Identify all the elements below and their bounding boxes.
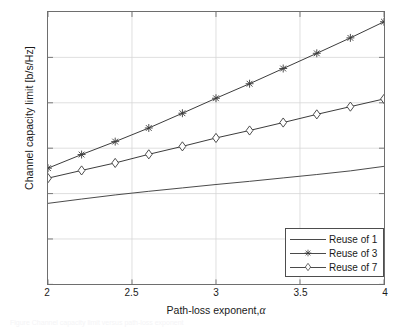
y-axis-label: Channel capacity limit [b/s/Hz] [23,0,35,243]
legend-swatch-diamond [290,261,326,273]
caption-ghost: Figure Channel capacity limit versus pat… [10,319,310,327]
x-tick-label: 3 [196,288,236,298]
legend-item-reuse-3[interactable]: Reuse of 3 [286,246,383,260]
chart-figure: Channel capacity limit [b/s/Hz] 00.20.40… [0,0,404,330]
legend-label: Reuse of 1 [326,234,377,245]
diamond-marker-icon [303,262,313,272]
chart-legend[interactable]: Reuse of 1 Reuse of 3 [285,228,384,277]
legend-label: Reuse of 7 [326,262,377,273]
legend-item-reuse-7[interactable]: Reuse of 7 [286,260,383,274]
x-tick-label: 2.5 [112,288,152,298]
x-axis-label: Path-loss exponent,α [47,304,385,316]
star-marker-icon [303,248,313,258]
legend-item-reuse-1[interactable]: Reuse of 1 [286,232,383,246]
x-tick-label: 4 [365,288,404,298]
x-axis-label-text: Path-loss exponent, [167,304,260,316]
legend-label: Reuse of 3 [326,248,377,259]
legend-swatch-star [290,247,326,259]
x-tick-label: 2 [27,288,67,298]
x-tick-label: 3.5 [281,288,321,298]
legend-swatch-line [290,233,326,245]
alpha-symbol: α [259,304,265,316]
